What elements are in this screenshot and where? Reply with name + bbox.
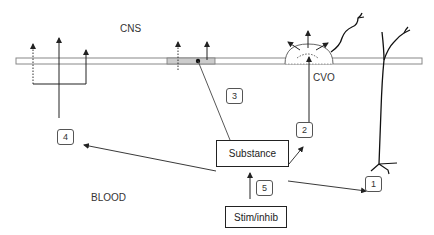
blood-brain-barrier — [16, 58, 422, 64]
cvo-circumventricular-organ — [285, 13, 364, 124]
cvo-label: CVO — [313, 72, 335, 83]
route-badge-2: 2 — [296, 122, 313, 138]
route-badge-4: 4 — [57, 129, 74, 145]
stim-inhib-box: Stim/inhib — [225, 206, 287, 228]
route-badge-3: 3 — [226, 88, 243, 104]
cns-label: CNS — [120, 23, 141, 34]
route-badge-1: 1 — [365, 176, 382, 192]
substance-box: Substance — [216, 140, 289, 167]
route-3-transporter-region — [167, 42, 230, 140]
neuron-route-1 — [371, 27, 410, 174]
route-4-paracellular-pathway — [33, 38, 86, 118]
route-badge-5: 5 — [256, 180, 273, 196]
blood-label: BLOOD — [91, 192, 126, 203]
diagram-canvas — [0, 0, 434, 235]
